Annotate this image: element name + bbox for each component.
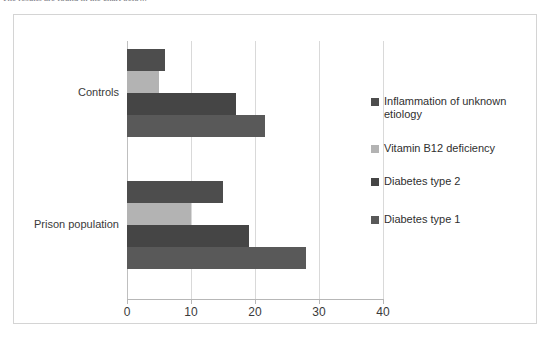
x-axis-tick: [383, 299, 384, 304]
x-axis-tick-label: 20: [235, 305, 275, 319]
legend-item[interactable]: Diabetes type 2: [371, 175, 460, 188]
x-axis-tick-label: 40: [363, 305, 403, 319]
legend-item-label: Diabetes type 2: [384, 175, 460, 188]
gridline-40: [383, 41, 384, 299]
bar[interactable]: [127, 247, 306, 269]
bar-fill: [127, 203, 191, 225]
chart-frame: ControlsPrison population Inflammation o…: [13, 14, 537, 324]
bar[interactable]: [127, 181, 223, 203]
bar-fill: [127, 247, 306, 269]
bar-fill: [127, 115, 265, 137]
bar[interactable]: [127, 71, 159, 93]
caption-label: The results are found in the chart below…: [2, 0, 147, 3]
bar-group-prison-population: Prison population: [127, 181, 383, 269]
legend-swatch-icon: [371, 178, 379, 186]
bar-group-controls: Controls: [127, 49, 383, 137]
legend-item[interactable]: Diabetes type 1: [371, 213, 460, 226]
legend-swatch-icon: [371, 145, 379, 153]
bar-fill: [127, 93, 236, 115]
legend-item[interactable]: Vitamin B12 deficiency: [371, 142, 495, 155]
x-axis-tick-label: 10: [171, 305, 211, 319]
x-axis-tick-label: 0: [107, 305, 147, 319]
x-axis-tick: [191, 299, 192, 304]
bar-fill: [127, 225, 249, 247]
legend-item-label: Diabetes type 1: [384, 213, 460, 226]
x-axis-tick: [127, 299, 128, 304]
legend-item[interactable]: Inflammation of unknown etiology: [371, 95, 531, 121]
bar[interactable]: [127, 115, 265, 137]
legend-item-label: Inflammation of unknown etiology: [384, 95, 531, 121]
plot-area: ControlsPrison population: [127, 41, 383, 299]
bar-fill: [127, 49, 165, 71]
bar-fill: [127, 71, 159, 93]
legend-swatch-icon: [371, 98, 379, 106]
category-label: Prison population: [34, 218, 119, 230]
bar[interactable]: [127, 203, 191, 225]
legend-item-label: Vitamin B12 deficiency: [384, 142, 495, 155]
x-axis-tick: [319, 299, 320, 304]
bar[interactable]: [127, 93, 236, 115]
bar[interactable]: [127, 225, 249, 247]
category-label: Controls: [78, 86, 119, 98]
x-axis-tick-label: 30: [299, 305, 339, 319]
caption-text-sliver: The results are found in the chart below…: [0, 0, 550, 10]
bar-fill: [127, 181, 223, 203]
bar[interactable]: [127, 49, 165, 71]
x-axis-tick: [255, 299, 256, 304]
legend-swatch-icon: [371, 216, 379, 224]
